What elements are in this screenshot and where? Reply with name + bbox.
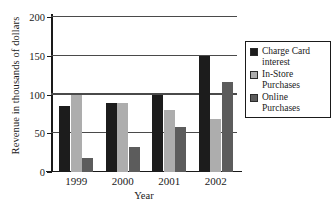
legend-item-label: OnlinePurchases bbox=[262, 92, 300, 113]
legend-swatch-icon bbox=[250, 48, 258, 56]
legend-item-label: Charge Cardinterest bbox=[262, 46, 310, 67]
plot-area: 050100150200 1999200020012002 bbox=[51, 17, 237, 172]
legend-item: Charge Cardinterest bbox=[250, 46, 327, 67]
legend-item-label: In-StorePurchases bbox=[262, 69, 300, 90]
x-axis-tick-label: 1999 bbox=[65, 175, 87, 187]
y-axis-title: Revenue in thousands of dollars bbox=[10, 1, 21, 171]
y-axis-tick-label: 200 bbox=[29, 12, 45, 23]
y-axis-tick-mark bbox=[47, 172, 52, 173]
bar-group bbox=[106, 17, 140, 172]
bar bbox=[106, 103, 117, 172]
bar bbox=[222, 82, 233, 172]
bar-chart-figure: Revenue in thousands of dollars 05010015… bbox=[0, 0, 335, 212]
x-axis-tick-label: 2000 bbox=[112, 175, 134, 187]
legend-swatch-icon bbox=[250, 94, 258, 102]
y-axis-tick-mark bbox=[47, 17, 52, 18]
y-axis-tick-mark bbox=[47, 56, 52, 57]
bar bbox=[71, 95, 82, 173]
y-axis-tick-label: 100 bbox=[29, 89, 45, 100]
y-axis-tick-label: 0 bbox=[40, 167, 45, 178]
x-axis-title: Year bbox=[51, 190, 237, 201]
y-axis-tick-label: 50 bbox=[35, 128, 46, 139]
bar bbox=[59, 106, 70, 172]
y-axis-title-container: Revenue in thousands of dollars bbox=[0, 0, 20, 180]
legend-swatch-icon bbox=[250, 71, 258, 79]
y-axis-tick-mark bbox=[47, 95, 52, 96]
legend-item: In-StorePurchases bbox=[250, 69, 327, 90]
chart-legend: Charge CardinterestIn-StorePurchasesOnli… bbox=[245, 41, 331, 118]
y-axis-tick-mark bbox=[47, 133, 52, 134]
bar-group bbox=[59, 17, 93, 172]
bar bbox=[117, 103, 128, 172]
x-axis-tick-label: 2001 bbox=[158, 175, 180, 187]
legend-item: OnlinePurchases bbox=[250, 92, 327, 113]
bar bbox=[129, 147, 140, 172]
bar-group bbox=[199, 17, 233, 172]
x-axis-tick-label: 2002 bbox=[205, 175, 227, 187]
bar bbox=[82, 158, 93, 172]
y-axis-tick-label: 150 bbox=[29, 50, 45, 61]
bar bbox=[210, 119, 221, 172]
bar bbox=[152, 95, 163, 172]
bar bbox=[199, 56, 210, 172]
bar bbox=[175, 127, 186, 172]
bar-group bbox=[152, 17, 186, 172]
bar bbox=[164, 110, 175, 172]
